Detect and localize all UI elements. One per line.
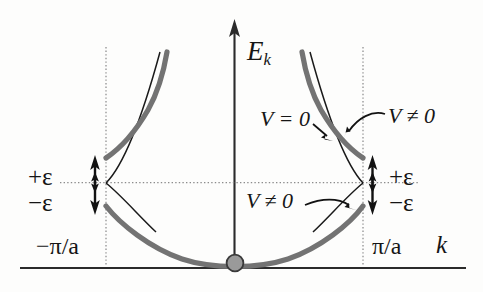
epsilon-plus-label-left: +ε bbox=[28, 164, 53, 189]
epsilon-minus-label-right: −ε bbox=[389, 190, 414, 215]
x-axis-label: k bbox=[436, 232, 447, 257]
v-nonzero-lower-annotation-label: V ≠ 0 bbox=[246, 190, 293, 212]
origin-marker bbox=[227, 255, 244, 272]
v-nonzero-upper-annotation-label: V ≠ 0 bbox=[388, 105, 435, 127]
y-axis-label-subscript: k bbox=[264, 50, 271, 69]
band-structure-figure: Ek +ε −ε +ε −ε V = 0 V ≠ 0 V ≠ 0 −π/a π/… bbox=[0, 0, 483, 292]
x-tick-label-right: π/a bbox=[372, 234, 401, 258]
v-zero-annotation-label: V = 0 bbox=[260, 108, 310, 130]
epsilon-plus-label-right: +ε bbox=[389, 164, 414, 189]
x-tick-label-left: −π/a bbox=[36, 234, 79, 258]
epsilon-minus-label-left: −ε bbox=[28, 190, 53, 215]
y-axis-label-main: E bbox=[247, 36, 264, 66]
y-axis-label: Ek bbox=[247, 38, 271, 68]
